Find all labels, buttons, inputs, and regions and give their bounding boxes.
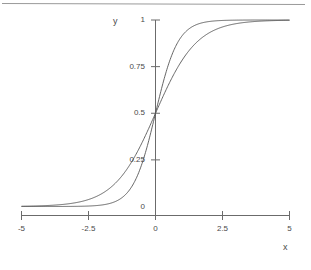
y-tick-label: 1	[105, 16, 145, 24]
y-tick-label: 0.25	[105, 156, 145, 164]
y-axis-title: y	[113, 17, 118, 26]
x-tick-label: 2.5	[203, 225, 243, 233]
top-border-rule	[2, 4, 305, 5]
chart-figure: -5-2.502.55 00.250.50.751 y x	[0, 0, 311, 270]
y-tick-label: 0.5	[105, 109, 145, 117]
x-tick-label: 5	[270, 225, 310, 233]
y-tick-label: 0	[105, 203, 145, 211]
x-tick-label: -2.5	[69, 225, 109, 233]
x-tick-label: 0	[136, 225, 176, 233]
x-tick-label: -5	[2, 225, 42, 233]
x-axis-title: x	[283, 243, 288, 252]
y-tick-label: 0.75	[105, 63, 145, 71]
